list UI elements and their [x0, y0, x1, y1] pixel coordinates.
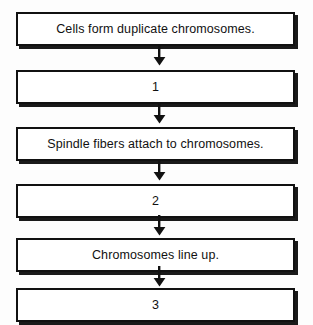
arrow-down-icon [153, 215, 166, 236]
arrow-down-icon [153, 266, 166, 287]
flowchart-blank-box[interactable]: 2 [16, 184, 295, 218]
flowchart-blank-box[interactable]: 3 [16, 288, 295, 322]
arrow-down-icon [153, 103, 166, 124]
flowchart-blank-number: 2 [152, 195, 159, 208]
flowchart-diagram: Cells form duplicate chromosomes. 1 Spin… [0, 0, 313, 325]
arrow-down-icon [153, 45, 166, 66]
flowchart-step-label: Spindle fibers attach to chromosomes. [47, 138, 263, 151]
flowchart-step-label: Chromosomes line up. [92, 249, 219, 262]
flowchart-step-label: Cells form duplicate chromosomes. [56, 23, 255, 36]
flowchart-blank-number: 1 [152, 81, 159, 94]
arrow-down-icon [153, 160, 166, 181]
flowchart-blank-box[interactable]: 1 [16, 70, 295, 104]
flowchart-blank-number: 3 [152, 299, 159, 312]
flowchart-step-box: Cells form duplicate chromosomes. [16, 12, 295, 46]
flowchart-step-box: Spindle fibers attach to chromosomes. [16, 127, 295, 161]
